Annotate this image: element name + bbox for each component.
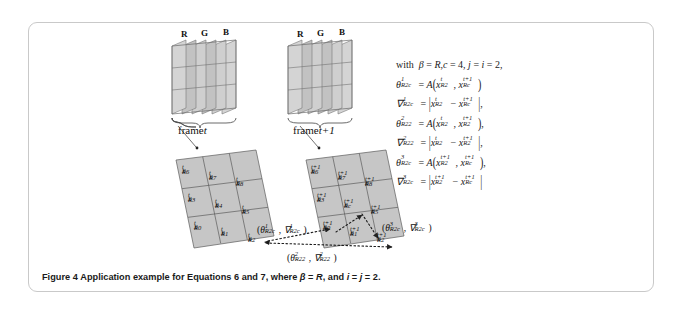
- cell-label: xt+1R1: [350, 228, 367, 237]
- figure-screenshot: R G B R G B framet framet+1 xtR6 xtR7 xt…: [0, 0, 682, 313]
- cell-label: xt+1R6: [311, 166, 328, 175]
- frame-label-left-text: frame: [178, 124, 204, 136]
- left-channel-label-r: R: [181, 29, 188, 39]
- cell-label: xt+1R5: [371, 206, 388, 215]
- caption-text: Application example for Equations 6 and …: [80, 272, 297, 282]
- equation-grad-2: ∇2R22 = |xtR2 − xt+1R2 |,: [396, 138, 606, 152]
- cell-label: xt+1R3: [317, 194, 334, 203]
- cell-label: xtR2: [248, 234, 263, 243]
- cell-label: xtR3: [188, 194, 203, 203]
- right-channel-label-r: R: [297, 29, 304, 39]
- left-channel-label-b: B: [223, 27, 229, 37]
- cell-label: xtR6: [182, 166, 197, 175]
- frame-label-right-time: t+1: [319, 124, 335, 136]
- equation-intro: with β = R,c = 4, j = i = 2,: [396, 60, 606, 74]
- cell-label: xt+1R7: [338, 172, 355, 181]
- caption-math-1: β = R: [300, 272, 323, 282]
- equation-theta-2: θ2R22 = A(xtR2 , xt+1R2 ),: [396, 119, 606, 133]
- annotation-bottom-pair: (θ2R22 , ∇2R22 ): [287, 252, 337, 263]
- right-channel-label-g: G: [317, 28, 324, 38]
- equation-grad-1: ∇1R2c = |xtR2 − xt+1Rc |,: [396, 99, 606, 113]
- cell-label: xt+1R2: [377, 234, 394, 243]
- equation-theta-1: θ1R2c = A(xtR2 , xt+1Rc ): [396, 80, 606, 94]
- frame-label-right-text: frame: [293, 124, 319, 136]
- cell-label: xtR4: [215, 200, 230, 209]
- frame-label-left-time: t: [204, 124, 207, 136]
- cell-label: xtR7: [209, 172, 224, 181]
- figure-caption: Figure 4 Application example for Equatio…: [42, 272, 632, 282]
- cell-label: xt+1R8: [365, 178, 382, 187]
- caption-math-2: i = j = 2.: [347, 272, 381, 282]
- left-channel-label-g: G: [201, 28, 208, 38]
- equation-grad-3: ∇3R2c = |xt+1R2 − xt+1Rc |: [396, 177, 606, 191]
- right-channel-label-b: B: [339, 27, 345, 37]
- equation-theta-3: θ3R2c = A(xt+1R2 , xt+1Rc ),: [396, 158, 606, 172]
- caption-text-2: , and: [323, 272, 344, 282]
- cell-label: xt+1R0: [323, 222, 340, 231]
- frame-label-left: framet: [178, 124, 207, 136]
- annotation-left-pair: (θ1R2c , ∇1R2c ): [257, 224, 307, 235]
- caption-label: Figure 4: [42, 272, 78, 282]
- annotation-right-pair: (θ3R2c , ∇3R2c ): [382, 222, 432, 233]
- cell-label: xtR0: [194, 222, 209, 231]
- cell-label: xt+1Rc: [344, 200, 361, 209]
- cell-label: xtR1: [221, 228, 236, 237]
- cell-label: xtR8: [236, 178, 251, 187]
- frame-label-right: framet+1: [293, 124, 335, 136]
- cell-label: xtR5: [242, 206, 257, 215]
- equation-block: with β = R,c = 4, j = i = 2, θ1R2c = A(x…: [396, 60, 606, 197]
